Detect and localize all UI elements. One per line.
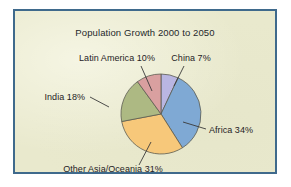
pie-chart: Population Growth 2000 to 2050 China 7%A…: [13, 9, 277, 174]
leader-line-india: [90, 97, 109, 107]
slice-label-china: China 7%: [171, 53, 210, 63]
slice-label-india: India 18%: [45, 92, 85, 102]
slice-label-other-asia-oceania: Other Asia/Oceania 31%: [63, 164, 163, 174]
slice-label-latin-america: Latin America 10%: [79, 53, 155, 63]
figure-canvas: Population Growth 2000 to 2050 China 7%A…: [0, 0, 291, 187]
slice-label-africa: Africa 34%: [209, 125, 253, 135]
chart-title: Population Growth 2000 to 2050: [75, 27, 214, 38]
pie-wedges: [121, 74, 201, 154]
